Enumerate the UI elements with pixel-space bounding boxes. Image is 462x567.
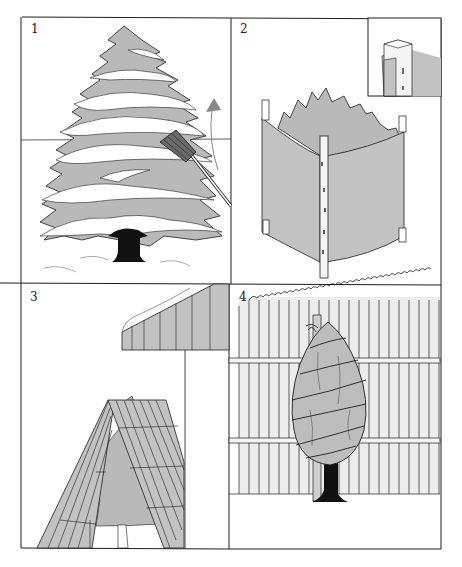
panel-number-4: 4	[239, 290, 247, 304]
panel-1-art	[21, 26, 231, 272]
tree-trunk	[108, 228, 148, 262]
illustration-figure: 1 2 3 4	[0, 0, 462, 567]
panel-4-art	[229, 268, 440, 502]
corner-detail-inset	[368, 18, 441, 96]
figure-artwork	[0, 0, 462, 567]
panel-number-1: 1	[31, 22, 39, 36]
curved-arrow-icon	[206, 98, 221, 170]
panel-number-3: 3	[30, 290, 38, 304]
panel-2-art	[262, 18, 441, 278]
panel-3-art	[37, 284, 229, 549]
panel-number-2: 2	[240, 22, 248, 36]
